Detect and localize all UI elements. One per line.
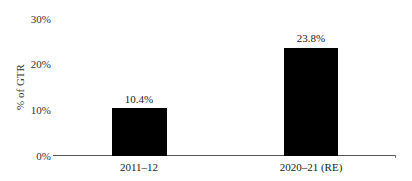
x-tick-label: 2011–12 <box>120 161 158 173</box>
bar-2020-21-re <box>284 48 338 156</box>
y-tick-label: 20% <box>31 58 51 70</box>
x-axis-end-tick <box>395 155 396 158</box>
bar-2011-12 <box>112 108 167 156</box>
y-axis-label: % of GTR <box>14 64 26 110</box>
bar-value-label: 23.8% <box>297 32 325 44</box>
bar-chart: % of GTR 30% 20% 10% 0% 10.4% 23.8% 2011… <box>0 0 412 181</box>
x-axis-line <box>53 155 396 156</box>
bar-value-label: 10.4% <box>125 93 153 105</box>
y-tick-label: 0% <box>36 150 51 162</box>
y-tick-label: 10% <box>31 104 51 116</box>
y-tick-label: 30% <box>31 13 51 25</box>
x-tick-label: 2020–21 (RE) <box>280 161 343 173</box>
